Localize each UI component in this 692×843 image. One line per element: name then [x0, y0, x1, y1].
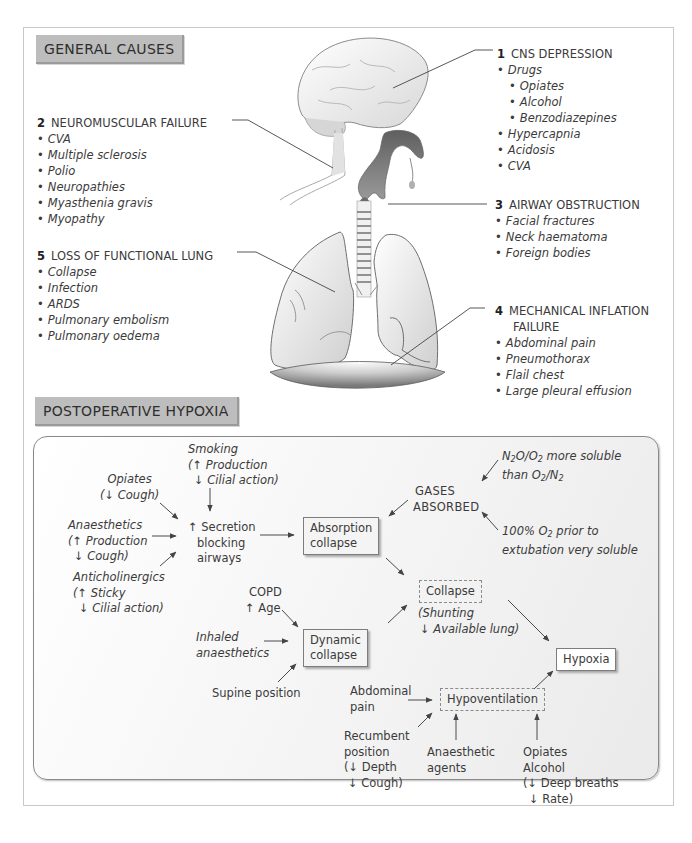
cause-item: Drugs — [497, 62, 617, 78]
cause-airway-obstruction: 3AIRWAY OBSTRUCTION Facial fractures Nec… — [495, 197, 640, 261]
cause-item: Large pleural effusion — [495, 383, 649, 399]
cause-item: Collapse — [37, 264, 213, 280]
cause-title: NEUROMUSCULAR FAILURE — [51, 116, 207, 130]
cause-number: 1 — [497, 47, 505, 61]
cause-item: Myasthenia gravis — [37, 195, 207, 211]
cause-item: Neuropathies — [37, 179, 207, 195]
flow-oxygen-100: 100% O2 prior to extubation very soluble — [502, 524, 638, 558]
cause-item: Multiple sclerosis — [37, 147, 207, 163]
cause-item: Foreign bodies — [495, 245, 640, 261]
flow-anaesthetic-agents: Anaesthetic agents — [427, 745, 495, 776]
cause-number: 2 — [37, 116, 45, 130]
general-causes-label: GENERAL CAUSES — [36, 35, 184, 64]
cause-item: Myopathy — [37, 211, 207, 227]
node-absorption-collapse: Absorption collapse — [303, 517, 379, 555]
cause-number: 4 — [495, 304, 503, 318]
cause-item: CVA — [497, 158, 617, 174]
cause-item: Neck haematoma — [495, 229, 640, 245]
cause-loss-of-functional-lung: 5LOSS OF FUNCTIONAL LUNG Collapse Infect… — [37, 248, 213, 344]
cause-title: MECHANICAL INFLATION — [509, 304, 649, 318]
node-hypoxia: Hypoxia — [556, 648, 616, 671]
flow-opiates-alcohol: Opiates Alcohol (↓ Deep breaths ↓ Rate) — [523, 745, 618, 807]
cause-number: 3 — [495, 198, 503, 212]
cause-item: Infection — [37, 280, 213, 296]
cause-cns-depression: 1CNS DEPRESSION Drugs Opiates Alcohol Be… — [497, 46, 617, 174]
flow-n2o-soluble: N2O/O2 more soluble than O2/N2 — [502, 449, 621, 486]
cause-item: Polio — [37, 163, 207, 179]
cause-item: CVA — [37, 131, 207, 147]
cause-item: Acidosis — [497, 142, 617, 158]
node-hypoventilation: Hypoventilation — [440, 688, 545, 711]
cause-item: Pulmonary oedema — [37, 328, 213, 344]
cause-mechanical-inflation-failure: 4MECHANICAL INFLATION FAILURE Abdominal … — [495, 303, 649, 399]
cause-item: Facial fractures — [495, 213, 640, 229]
node-dynamic-collapse: Dynamic collapse — [303, 629, 368, 667]
cause-item: Flail chest — [495, 367, 649, 383]
cause-number: 5 — [37, 249, 45, 263]
flow-supine-position: Supine position — [212, 686, 301, 702]
flow-anaesthetics: Anaesthetics (↑ Production ↓ Cough) — [68, 518, 147, 565]
cause-item: Pulmonary embolism — [37, 312, 213, 328]
cause-subitem: Opiates — [497, 78, 617, 94]
cause-item: Hypercapnia — [497, 126, 617, 142]
cause-title: CNS DEPRESSION — [511, 47, 613, 61]
flow-gases-absorbed: GASES ABSORBED — [413, 484, 479, 515]
flow-abdominal-pain: Abdominal pain — [350, 684, 411, 715]
flow-secretion: ↑ Secretion blocking airways — [188, 520, 256, 567]
cause-item: ARDS — [37, 296, 213, 312]
cause-title-cont: FAILURE — [495, 319, 649, 335]
flow-inhaled-anaesthetics: Inhaled anaesthetics — [196, 630, 269, 661]
cause-item: Pneumothorax — [495, 351, 649, 367]
postoperative-hypoxia-label: POSTOPERATIVE HYPOXIA — [35, 397, 239, 426]
flow-shunting: (Shunting ↓ Available lung) — [418, 606, 519, 637]
flow-copd-age: COPD ↑ Age — [245, 585, 282, 616]
cause-subitem: Benzodiazepines — [497, 110, 617, 126]
cause-title: AIRWAY OBSTRUCTION — [509, 198, 640, 212]
flow-smoking: Smoking (↑ Production ↓ Cilial action) — [188, 442, 279, 489]
flow-anticholinergics: Anticholinergics (↑ Sticky ↓ Cilial acti… — [73, 570, 165, 617]
cause-item: Abdominal pain — [495, 335, 649, 351]
cause-subitem: Alcohol — [497, 94, 617, 110]
cause-neuromuscular-failure: 2NEUROMUSCULAR FAILURE CVA Multiple scle… — [37, 115, 207, 227]
node-collapse: Collapse — [419, 580, 482, 603]
cause-title: LOSS OF FUNCTIONAL LUNG — [51, 249, 213, 263]
flow-opiates: Opiates (↓ Cough) — [100, 472, 159, 503]
flow-recumbent-position: Recumbent position (↓ Depth ↓ Cough) — [344, 729, 410, 791]
